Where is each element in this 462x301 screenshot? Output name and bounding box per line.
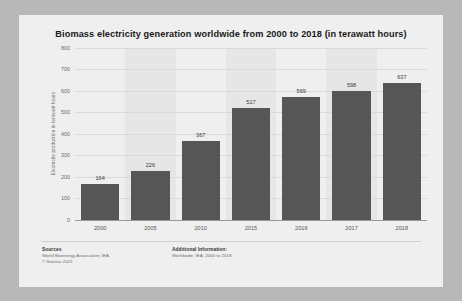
- x-axis-tick-2016: 2016: [276, 225, 326, 231]
- footer-sources-block: Sources World Bioenergy Association; IEA…: [42, 247, 109, 266]
- gridline-0: [75, 220, 427, 221]
- bar-value-label-2010: 367: [176, 132, 226, 138]
- bar-value-label-2017: 598: [326, 82, 376, 88]
- bar-value-label-2000: 164: [75, 175, 125, 181]
- chart-footer: Sources World Bioenergy Association; IEA…: [19, 241, 443, 277]
- bar-2000[interactable]: [81, 184, 119, 219]
- x-axis-tick-2000: 2000: [75, 225, 125, 231]
- x-axis-tick-2018: 2018: [377, 225, 427, 231]
- x-axis-tick-2015: 2015: [226, 225, 276, 231]
- bar-series: 164226367517569598637: [75, 48, 427, 220]
- bar-2005[interactable]: [131, 171, 169, 220]
- plot-area: 164226367517569598637: [75, 48, 427, 220]
- bar-group-2015[interactable]: 517: [226, 48, 276, 220]
- y-axis-tick-700: 700: [61, 66, 70, 72]
- y-axis-tick-100: 100: [61, 195, 70, 201]
- bar-value-label-2018: 637: [377, 74, 427, 80]
- bar-2018[interactable]: [383, 83, 421, 220]
- bar-group-2010[interactable]: 367: [176, 48, 226, 220]
- bar-value-label-2015: 517: [226, 99, 276, 105]
- footer-sources-heading: Sources: [42, 247, 109, 252]
- footer-additional-heading: Additional Information:: [172, 247, 231, 252]
- y-axis-tick-600: 600: [61, 88, 70, 94]
- bar-2016[interactable]: [282, 97, 320, 219]
- y-axis-tick-labels: 0100200300400500600700800: [43, 48, 73, 220]
- y-axis-tick-200: 200: [61, 174, 70, 180]
- y-axis-tick-400: 400: [61, 131, 70, 137]
- bar-2015[interactable]: [232, 108, 270, 219]
- y-axis-tick-800: 800: [61, 45, 70, 51]
- y-axis-tick-0: 0: [67, 217, 70, 223]
- x-axis-tick-2005: 2005: [125, 225, 175, 231]
- x-axis-tick-2017: 2017: [326, 225, 376, 231]
- bar-group-2016[interactable]: 569: [276, 48, 326, 220]
- x-axis-tick-2010: 2010: [176, 225, 226, 231]
- bar-group-2000[interactable]: 164: [75, 48, 125, 220]
- footer-divider: [41, 241, 421, 242]
- y-axis-tick-500: 500: [61, 109, 70, 115]
- chart-title: Biomass electricity generation worldwide…: [19, 29, 443, 39]
- chart-card: Biomass electricity generation worldwide…: [19, 15, 443, 287]
- bar-2017[interactable]: [332, 91, 370, 220]
- y-axis-tick-300: 300: [61, 152, 70, 158]
- bar-value-label-2005: 226: [125, 162, 175, 168]
- bar-group-2017[interactable]: 598: [326, 48, 376, 220]
- footer-additional-block: Additional Information: Worldwide; IEA; …: [172, 247, 231, 260]
- bar-group-2005[interactable]: 226: [125, 48, 175, 220]
- x-axis-tick-labels: 2000200520102015201620172018: [75, 222, 427, 236]
- bar-value-label-2016: 569: [276, 88, 326, 94]
- footer-sources-line-2: © Statista 2021: [42, 259, 109, 265]
- bar-2010[interactable]: [182, 141, 220, 220]
- bar-group-2018[interactable]: 637: [377, 48, 427, 220]
- footer-additional-line-1: Worldwide; IEA; 2000 to 2018: [172, 253, 231, 259]
